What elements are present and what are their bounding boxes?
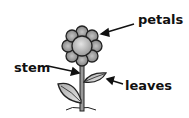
flower-center [72, 36, 92, 56]
petals-label: petals [138, 13, 183, 26]
right-leaf [84, 73, 106, 82]
leaves-label: leaves [125, 79, 172, 92]
left-leaf [58, 83, 81, 103]
stem-label: stem [14, 61, 50, 74]
